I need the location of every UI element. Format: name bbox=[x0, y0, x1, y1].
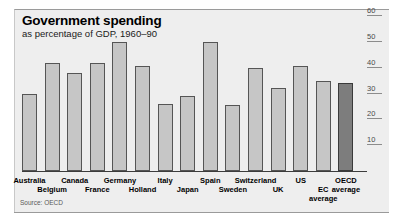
panel-bottom-rule bbox=[14, 212, 389, 213]
bar-japan bbox=[180, 96, 195, 171]
x-axis-baseline bbox=[22, 171, 367, 172]
bar-belgium bbox=[45, 63, 60, 172]
bar-canada bbox=[67, 73, 82, 171]
bar-sweden bbox=[225, 105, 240, 171]
y-axis: 102030405060 bbox=[367, 0, 391, 221]
bar-france bbox=[90, 63, 105, 172]
y-tick-30: 30 bbox=[367, 85, 382, 94]
y-tick-50: 50 bbox=[367, 33, 382, 42]
x-label-oecd-average: OECDaverage bbox=[322, 177, 370, 194]
x-label-ec-average-line2: average bbox=[300, 195, 346, 204]
chart-figure: Government spending as percentage of GDP… bbox=[0, 0, 402, 221]
bar-germany bbox=[112, 42, 127, 171]
y-tick-60: 60 bbox=[367, 7, 382, 16]
bar-holland bbox=[135, 66, 150, 171]
bar-italy bbox=[158, 104, 173, 171]
source-note: Source: OECD bbox=[20, 199, 63, 206]
plot-area bbox=[22, 16, 362, 171]
bar-switzerland bbox=[248, 68, 263, 171]
bar-spain bbox=[203, 42, 218, 171]
bar-oecd-average bbox=[338, 83, 353, 171]
bar-us bbox=[293, 66, 308, 171]
y-tick-40: 40 bbox=[367, 59, 382, 68]
bar-australia bbox=[22, 94, 37, 172]
x-label-uk: UK bbox=[249, 186, 307, 195]
bar-ec-average bbox=[316, 81, 331, 171]
y-tick-10: 10 bbox=[367, 136, 382, 145]
x-label-oecd-average-line2: average bbox=[322, 186, 370, 195]
y-tick-20: 20 bbox=[367, 110, 382, 119]
bar-uk bbox=[271, 88, 286, 171]
